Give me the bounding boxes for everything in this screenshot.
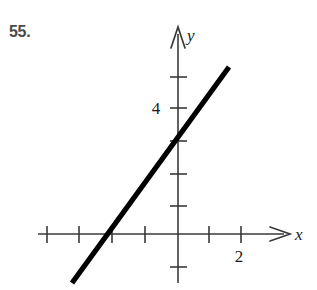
- coordinate-graph: y x 4 2: [0, 0, 317, 290]
- figure-canvas: 55.: [0, 0, 317, 290]
- x-axis-label: x: [294, 225, 303, 244]
- plotted-line: [72, 67, 229, 283]
- y-axis-label: y: [185, 26, 195, 45]
- y-tick-label-4: 4: [152, 99, 161, 118]
- x-tick-label-2: 2: [235, 247, 244, 266]
